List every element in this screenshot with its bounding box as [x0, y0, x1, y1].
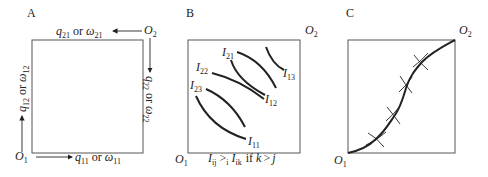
curve-label-i22: I22 — [195, 60, 208, 76]
indifference-curve-inner — [206, 89, 245, 127]
panel-b-origin-o1: O1 — [175, 152, 188, 168]
curve-label-i21: I21 — [221, 45, 234, 61]
indifference-curve-i22-i12 — [212, 73, 264, 99]
panel-b-origin-o2: O2 — [305, 23, 318, 39]
edgeworth-box-diagram: A O1 O2 q11orω11 q21orω21 q12orω12 q22or… — [0, 0, 488, 177]
panel-a-label: A — [27, 6, 36, 20]
panel-b-label: B — [186, 6, 194, 20]
panel-a-origin-o1: O1 — [15, 149, 28, 165]
panel-a-origin-o2: O2 — [144, 23, 157, 39]
panel-a: A O1 O2 q11orω11 q21orω21 q12orω12 q22or… — [15, 6, 157, 166]
curve-label-i11: I11 — [247, 134, 260, 150]
panel-a-axis-bottom: q11orω11 — [75, 150, 121, 166]
panel-c-box — [348, 40, 455, 153]
indifference-curve-i13 — [266, 47, 284, 70]
panel-b-box — [188, 40, 300, 153]
contract-curve — [348, 40, 455, 153]
panel-c: C O2 O1 — [334, 6, 472, 169]
panel-a-axis-left: q12orω12 — [15, 66, 31, 112]
panel-a-box — [32, 40, 143, 153]
curve-label-i23: I23 — [189, 78, 202, 94]
panel-a-axis-right: q22orω22 — [141, 76, 157, 122]
curve-label-i13: I13 — [282, 66, 295, 82]
panel-c-label: C — [346, 6, 354, 20]
panel-c-origin-o1: O1 — [334, 153, 347, 169]
panel-b: B O2 O1 I21 I22 I23 I13 I12 I11 Iij>iIik… — [175, 6, 318, 168]
panel-a-axis-top: q21orω21 — [56, 24, 102, 40]
curve-label-i12: I12 — [264, 92, 277, 108]
panel-c-origin-o2: O2 — [459, 23, 472, 39]
